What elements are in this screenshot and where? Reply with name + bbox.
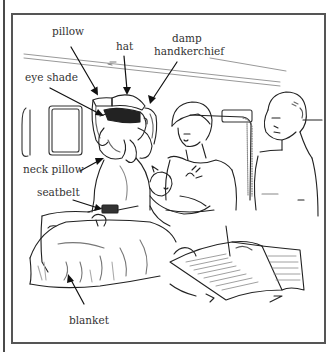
seat-backs [190, 115, 322, 200]
label-hat: hat [116, 41, 133, 52]
blanket [30, 220, 176, 288]
baby [150, 166, 210, 226]
label-damp-handkerchief-line2: handkerchief [154, 46, 224, 57]
annotation-arrows [50, 47, 177, 304]
label-seatbelt: seatbelt [37, 187, 80, 198]
label-eye-shade: eye shade [25, 72, 78, 83]
seat-bottoms [170, 284, 282, 302]
label-blanket: blanket [69, 315, 109, 326]
label-pillow: pillow [52, 26, 84, 37]
label-damp-handkerchief-line1: damp [172, 33, 202, 44]
mother-passenger [166, 102, 237, 256]
label-neck-pillow: neck pillow [23, 164, 84, 175]
newspaper [170, 242, 304, 301]
bald-passenger [254, 92, 318, 216]
